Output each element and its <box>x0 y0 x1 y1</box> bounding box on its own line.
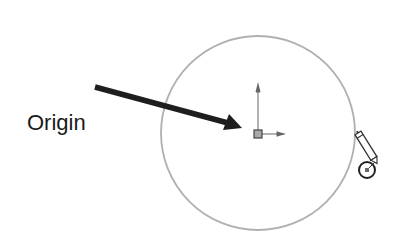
pencil-cursor-icon <box>354 129 380 178</box>
origin-label: Origin <box>27 110 86 136</box>
sketch-canvas[interactable]: Origin <box>0 0 414 252</box>
origin-icon[interactable] <box>254 82 286 138</box>
